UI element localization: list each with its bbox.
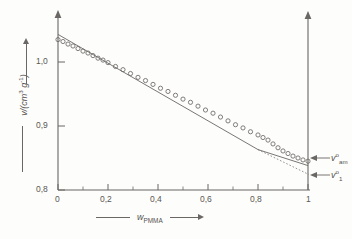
data-point — [281, 149, 285, 153]
data-point — [296, 156, 300, 160]
x-label-leader-arrow — [170, 214, 204, 221]
data-point — [301, 158, 305, 162]
data-point — [226, 119, 230, 123]
data-point — [211, 111, 215, 115]
y-axis-arrowhead — [55, 10, 62, 18]
annotation-v-amorphous: voam — [331, 151, 348, 165]
plot-canvas — [0, 0, 352, 239]
y-tick-label-0-8: 0,8 — [36, 184, 48, 194]
data-point — [248, 130, 252, 134]
data-point — [286, 151, 290, 155]
data-point — [218, 115, 222, 119]
x-axis-label: wPMMA — [96, 212, 204, 224]
x-tick-label-0-4: 0,4 — [150, 194, 162, 204]
x-tick-label-0-8: 0,8 — [250, 194, 262, 204]
data-point — [136, 75, 140, 79]
data-point — [241, 126, 245, 130]
fit-line — [58, 34, 308, 165]
data-point — [256, 133, 260, 137]
data-point — [71, 44, 75, 48]
data-point — [76, 46, 80, 50]
data-point — [143, 78, 147, 82]
data-point — [66, 42, 70, 46]
y-tick-label-1-0: 1,0 — [36, 56, 48, 66]
data-point — [166, 89, 170, 93]
data-markers — [56, 38, 310, 164]
y-label-leader-line — [26, 44, 27, 84]
data-point — [158, 86, 162, 90]
x-tick-label-0: 0 — [55, 194, 60, 204]
x-tick-label-1: 1 — [306, 194, 311, 204]
data-point — [203, 108, 207, 112]
data-point — [81, 49, 85, 53]
data-point — [276, 146, 280, 150]
data-point — [128, 71, 132, 75]
data-point — [233, 123, 237, 127]
figure-container: v/(cm3 g-1) 1,0 0,9 0,8 0 0,2 0,4 0,6 0,… — [0, 0, 352, 239]
right-axis-arrowhead — [305, 11, 312, 19]
data-point — [181, 97, 185, 101]
data-point — [121, 68, 125, 72]
data-point — [173, 93, 177, 97]
data-point — [291, 154, 295, 158]
data-point — [271, 142, 275, 146]
y-label-leader-arrow — [22, 38, 30, 84]
annotation-arrows — [310, 155, 330, 178]
x-tick-label-0-2: 0,2 — [100, 194, 112, 204]
y-label-leader-line-lower — [22, 126, 23, 172]
data-point — [196, 104, 200, 108]
x-tick-label-0-6: 0,6 — [200, 194, 212, 204]
y-tick-label-0-9: 0,9 — [36, 120, 48, 130]
data-point — [61, 39, 65, 43]
data-point — [266, 138, 270, 142]
data-point — [188, 100, 192, 104]
data-point — [151, 82, 155, 86]
x-label-leader-line — [96, 217, 130, 218]
data-point — [261, 135, 265, 139]
y-axis — [55, 10, 65, 190]
v-am-arrowhead — [310, 155, 317, 161]
annotation-v-crystalline: vo1 — [331, 168, 342, 182]
x-axis — [58, 184, 310, 190]
x-axis-label-text: wPMMA — [137, 212, 163, 224]
v-1-arrowhead — [310, 172, 317, 178]
